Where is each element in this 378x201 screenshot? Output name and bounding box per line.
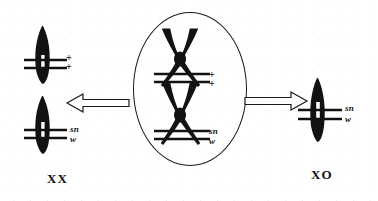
left-bottom-marker-line2: w <box>70 134 76 144</box>
center-upper-crossed-chromosome <box>152 28 216 90</box>
right-marker-line2: w <box>345 114 351 124</box>
right-marker-line1: sn <box>345 103 354 113</box>
left-bottom-marker-line1: sn <box>70 124 79 134</box>
left-top-marker-line2: + <box>66 63 72 70</box>
left-top-chromosome <box>23 24 69 86</box>
center-lower-marker-line1: sn <box>209 126 218 136</box>
center-upper-marker-line1: + <box>209 71 215 78</box>
left-arrow-icon <box>65 92 131 114</box>
center-lower-crossed-chromosome <box>152 82 216 148</box>
right-product-caption: XO <box>311 167 333 183</box>
left-top-marker-line1: + <box>66 54 72 61</box>
right-chromosome <box>297 76 343 144</box>
figure-canvas: + + sn w <box>0 0 378 201</box>
left-product-caption: XX <box>47 171 68 187</box>
center-lower-marker-line2: w <box>209 136 215 146</box>
left-bottom-chromosome <box>23 94 69 156</box>
